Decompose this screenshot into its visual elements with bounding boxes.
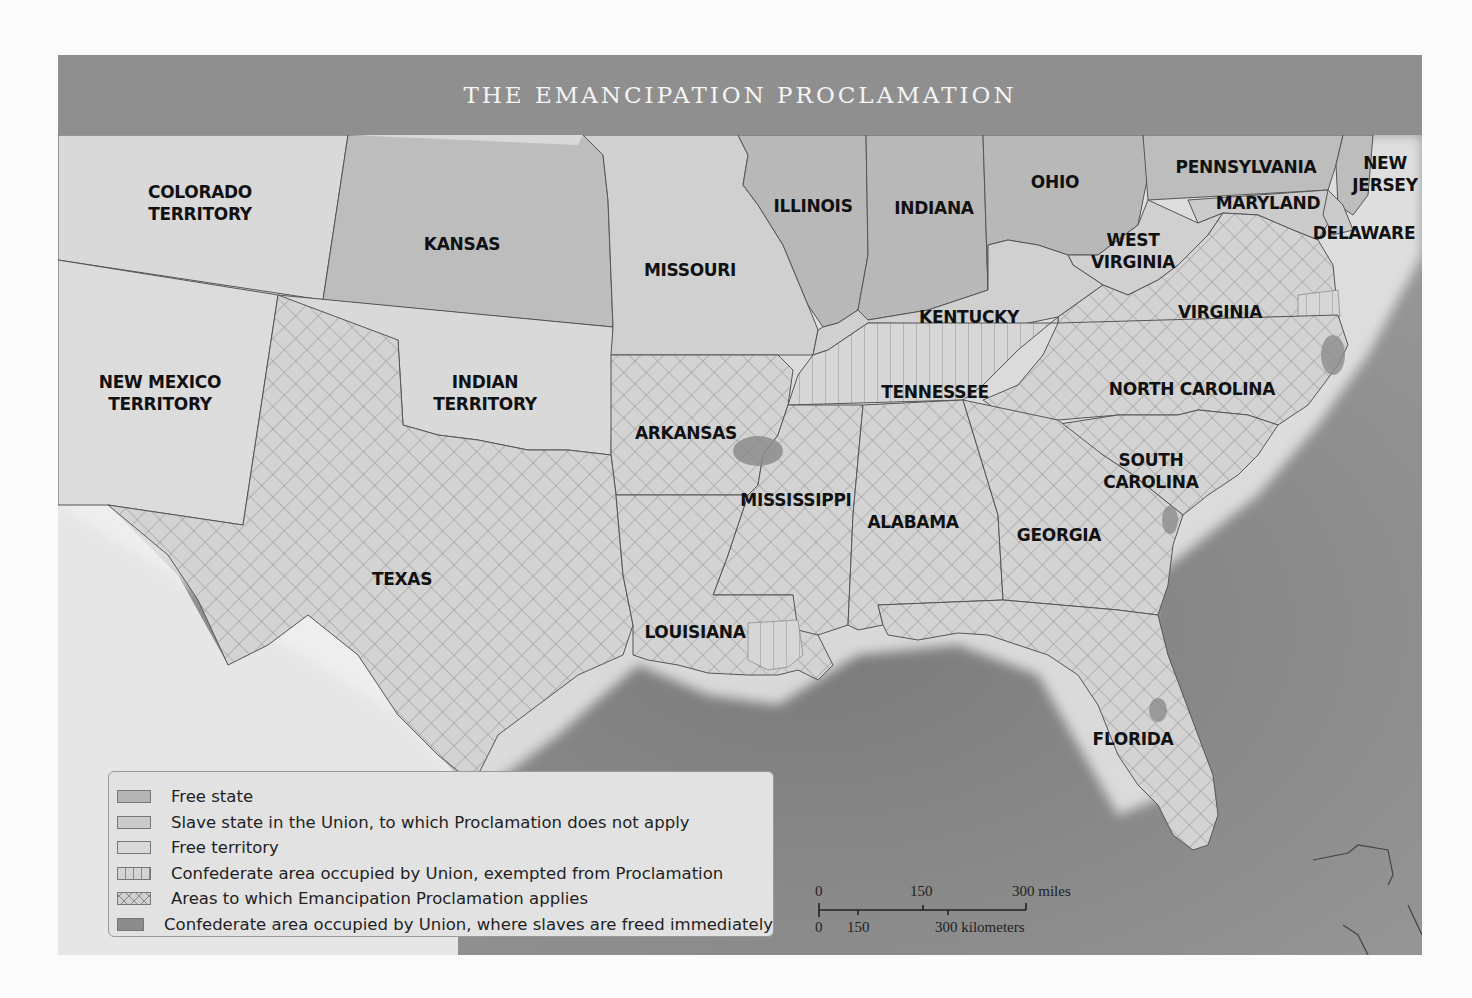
label-florida: FLORIDA — [1093, 728, 1174, 750]
scale-bar: 0 150 300 miles 0 150 300 kilometers — [815, 883, 1115, 943]
map-frame: THE EMANCIPATION PROCLAMATION — [58, 55, 1422, 955]
label-south-carolina: SOUTHCAROLINA — [1103, 449, 1198, 493]
label-illinois: ILLINOIS — [773, 195, 852, 217]
label-texas: TEXAS — [372, 568, 432, 590]
map-header: THE EMANCIPATION PROCLAMATION — [58, 55, 1422, 135]
swatch-slave-state-icon — [117, 816, 151, 829]
label-colorado-territory: COLORADOTERRITORY — [148, 181, 252, 225]
legend-item-free-state: Free state — [117, 784, 773, 810]
occupied-freed-arkansas — [733, 436, 783, 466]
label-georgia: GEORGIA — [1017, 524, 1101, 546]
label-indian-territory: INDIANTERRITORY — [433, 371, 537, 415]
scale-km-150: 150 — [847, 919, 870, 936]
scale-line — [818, 901, 1033, 921]
indiana-shape — [858, 135, 988, 320]
label-kentucky: KENTUCKY — [919, 306, 1019, 328]
swatch-free-state-icon — [117, 790, 151, 803]
swatch-free-territory-icon — [117, 841, 151, 854]
label-west-virginia: WESTVIRGINIA — [1091, 229, 1175, 273]
label-tennessee: TENNESSEE — [881, 381, 989, 403]
label-indiana: INDIANA — [894, 197, 973, 219]
label-new-mexico-territory: NEW MEXICOTERRITORY — [99, 371, 221, 415]
kansas-shape — [323, 135, 613, 327]
label-virginia: VIRGINIA — [1178, 301, 1262, 323]
label-louisiana: LOUISIANA — [644, 621, 745, 643]
legend-item-confederate-exempted: Confederate area occupied by Union, exem… — [117, 861, 773, 887]
occupied-freed-florida — [1149, 698, 1167, 722]
scale-miles-0: 0 — [815, 883, 823, 900]
map-title: THE EMANCIPATION PROCLAMATION — [463, 82, 1016, 108]
scale-miles-150: 150 — [910, 883, 933, 900]
label-arkansas: ARKANSAS — [635, 422, 737, 444]
occupied-freed-florida-south — [1148, 854, 1168, 870]
swatch-vertical-hatch-icon — [117, 867, 151, 880]
label-mississippi: MISSISSIPPI — [740, 489, 851, 511]
label-new-jersey: NEWJERSEY — [1352, 152, 1417, 196]
label-ohio: OHIO — [1031, 171, 1079, 193]
legend-item-freed-immediately: Confederate area occupied by Union, wher… — [117, 912, 773, 938]
legend-item-free-territory: Free territory — [117, 835, 773, 861]
occupied-freed-north-carolina — [1321, 335, 1345, 375]
legend-item-slave-state-union: Slave state in the Union, to which Procl… — [117, 810, 773, 836]
occupied-freed-south-carolina — [1162, 506, 1178, 534]
legend-item-proclamation-applies: Areas to which Emancipation Proclamation… — [117, 886, 773, 912]
label-delaware: DELAWARE — [1313, 222, 1415, 244]
label-alabama: ALABAMA — [867, 511, 958, 533]
label-maryland: MARYLAND — [1216, 192, 1320, 214]
scale-km-0: 0 — [815, 919, 823, 936]
swatch-freed-immediately-icon — [117, 918, 144, 931]
label-pennsylvania: PENNSYLVANIA — [1176, 156, 1317, 178]
map-legend: Free state Slave state in the Union, to … — [108, 771, 774, 937]
label-north-carolina: NORTH CAROLINA — [1109, 378, 1275, 400]
scale-miles-300: 300 miles — [1012, 883, 1071, 900]
label-kansas: KANSAS — [424, 233, 500, 255]
scale-km-300: 300 kilometers — [935, 919, 1025, 936]
label-missouri: MISSOURI — [644, 259, 736, 281]
swatch-crosshatch-icon — [117, 892, 151, 905]
